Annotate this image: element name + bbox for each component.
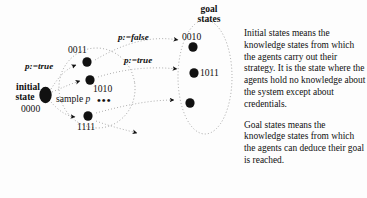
goal-states-title-line2: states — [186, 14, 232, 24]
edge-1010-to-1011 — [98, 68, 177, 77]
sample-node-0011-bits: 0011 — [68, 45, 87, 55]
initial-state-bits: 0000 — [21, 104, 40, 114]
edge-label-p-true-left: p:=true — [25, 62, 53, 71]
goal-node-0010-bits: 0010 — [182, 32, 201, 42]
explanation-paragraph-2: Goal states means the knowledge states f… — [244, 120, 366, 167]
sample-region-ellipsis: ••• — [97, 95, 112, 106]
edge-dangling-down — [96, 121, 137, 133]
edge-initial-to-1111 — [51, 102, 75, 117]
sample-node-1010-bits: 1010 — [93, 84, 112, 94]
figure-canvas: goal states initial state 0000 0011 1010… — [0, 0, 367, 198]
sample-region-label-var: p — [83, 93, 90, 104]
goal-node-0010 — [188, 42, 197, 52]
sample-node-1111 — [83, 111, 92, 121]
edge-label-p-false: p:=false — [118, 33, 149, 42]
initial-state-label-line2: state — [8, 92, 42, 102]
explanation-text-block: Initial states means the knowledge state… — [244, 28, 366, 167]
goal-node-3 — [185, 98, 194, 108]
sample-node-1111-bits: 1111 — [77, 122, 95, 132]
sample-region-label-word: sample — [56, 93, 83, 104]
sample-node-0011 — [82, 57, 91, 67]
sample-region-label: sample p — [56, 94, 90, 104]
edge-label-p-true-right: p:=true — [124, 56, 152, 65]
goal-node-1011 — [189, 68, 198, 78]
edge-initial-to-1010 — [52, 81, 80, 92]
goal-node-1011-bits: 1011 — [200, 68, 219, 78]
explanation-paragraph-1: Initial states means the knowledge state… — [244, 28, 366, 111]
